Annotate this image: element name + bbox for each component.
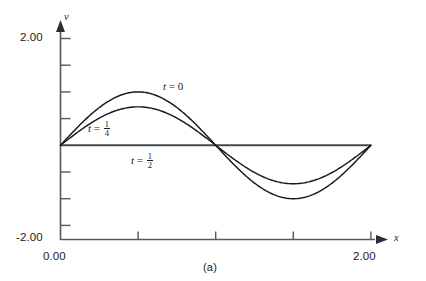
fraction-denominator: 2 [147, 161, 153, 170]
figure-caption: (a) [203, 262, 217, 273]
annotation-t-zero: t = 0 [163, 81, 183, 92]
y-tick-label-bottom: -2.00 [16, 232, 43, 244]
x-axis-ticks [138, 232, 371, 240]
annotation-t-one-quarter-space2 [100, 122, 103, 134]
x-axis-arrowhead-icon [376, 235, 388, 244]
x-tick-label-end: 2.00 [353, 251, 376, 263]
annotation-t-one-quarter-fraction: 14 [104, 120, 110, 139]
y-axis-ticks [61, 39, 71, 226]
annotation-t-one-quarter: t = 14 [88, 120, 110, 139]
annotation-t-one-half-space2 [143, 154, 146, 166]
y-tick-label-top: 2.00 [20, 32, 43, 44]
y-axis-label: v [64, 12, 69, 23]
plot-svg [0, 0, 426, 281]
annotation-t-one-half-fraction: 12 [147, 152, 153, 171]
fraction-denominator: 4 [104, 129, 110, 138]
x-tick-label-start: 0.00 [43, 251, 66, 263]
x-axis-label: x [394, 233, 399, 244]
annotation-t-zero-value: 0 [178, 80, 184, 92]
annotation-t-one-half: t = 12 [131, 152, 153, 171]
figure-container: v x 2.00 -2.00 0.00 2.00 t = 0 t = 14 t … [0, 0, 426, 281]
